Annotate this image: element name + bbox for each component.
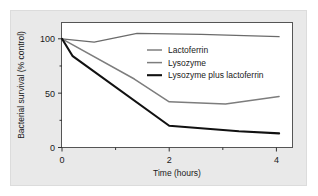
y-tick-label: 0 [50,143,55,153]
y-axis-title: Bacterial survival (% control) [16,31,26,139]
y-axis-tick-labels: 050100 [40,34,55,153]
x-axis: 024 Time (hours) [59,148,278,179]
x-tick-label: 0 [59,155,64,165]
x-tick-label: 4 [274,155,279,165]
y-tick-label: 50 [45,89,55,99]
y-axis: 050100 Bacterial survival (% control) [16,31,62,153]
x-axis-ticks [62,148,276,152]
legend-label: Lysozyme [168,58,206,68]
y-tick-label: 100 [40,34,55,44]
x-tick-label: 2 [167,155,172,165]
figure-container: 050100 Bacterial survival (% control) 02… [0,0,318,196]
x-axis-tick-labels: 024 [59,155,278,165]
legend-label: Lactoferrin [168,45,208,55]
line-chart: 050100 Bacterial survival (% control) 02… [0,0,318,196]
legend-label: Lysozyme plus lactoferrin [168,70,264,80]
x-axis-title: Time (hours) [153,168,201,178]
